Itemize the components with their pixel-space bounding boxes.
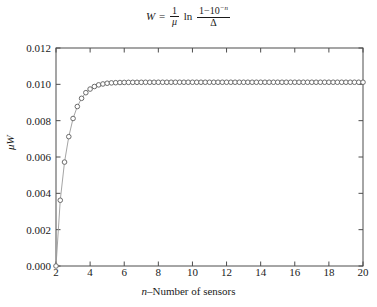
data-line — [56, 82, 363, 266]
data-point-marker — [71, 116, 76, 121]
y-tick-label: 0.006 — [26, 151, 51, 163]
y-tick-label: 0.004 — [26, 187, 51, 199]
data-point-marker — [84, 90, 89, 95]
data-point-marker — [75, 104, 80, 109]
data-point-marker — [79, 96, 84, 101]
x-axis-label: n–Number of sensors — [0, 285, 377, 297]
x-tick-label: 4 — [87, 266, 93, 278]
x-tick-label: 14 — [255, 266, 266, 278]
y-axis-label-rest: W — [4, 135, 16, 144]
y-tick-label: 0.012 — [26, 42, 51, 54]
x-tick-label: 10 — [187, 266, 198, 278]
y-axis-label: μW — [4, 135, 16, 150]
data-point-marker — [62, 160, 67, 165]
x-tick-label-group: 2468101214161820 — [0, 266, 377, 282]
x-tick-label: 2 — [53, 266, 59, 278]
y-axis-label-italic: μ — [4, 144, 16, 150]
data-point-marker — [58, 198, 63, 203]
y-tick-label: 0.010 — [26, 78, 51, 90]
data-point-group — [54, 80, 366, 268]
chart-canvas — [0, 0, 377, 307]
data-point-marker — [88, 87, 93, 92]
data-point-marker — [66, 134, 71, 139]
x-tick-label: 18 — [323, 266, 334, 278]
y-tick-label: 0.002 — [26, 224, 51, 236]
y-tick-label: 0.008 — [26, 115, 51, 127]
x-tick-label: 12 — [221, 266, 232, 278]
plot-area: 0.0000.0020.0040.0060.0080.0100.012 2468… — [0, 0, 377, 307]
data-point-marker — [361, 80, 366, 85]
x-tick-label: 20 — [358, 266, 369, 278]
figure: W = 1 μ ln 1−10−n Δ 0.0000.0020.0040.006… — [0, 0, 377, 307]
x-tick-label: 16 — [289, 266, 300, 278]
x-tick-label: 8 — [156, 266, 162, 278]
x-tick-label: 6 — [121, 266, 127, 278]
x-axis-label-rest: –Number of sensors — [147, 285, 236, 297]
y-tick-label-group: 0.0000.0020.0040.0060.0080.0100.012 — [0, 0, 51, 307]
